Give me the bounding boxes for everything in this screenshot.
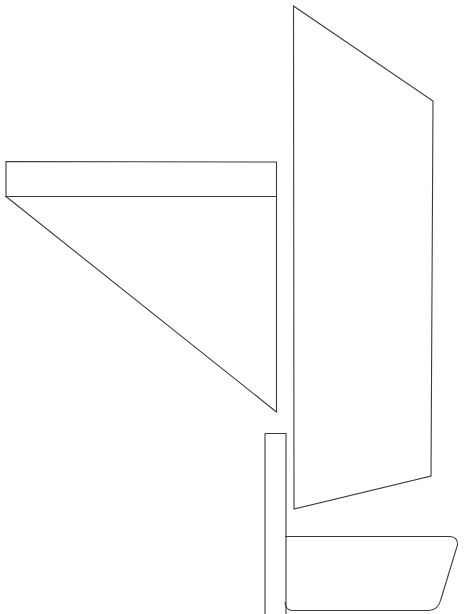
mast-spar-shape [265,434,286,614]
hull-shape [285,537,458,611]
mainsail-shape [294,6,434,509]
boom-bar-shape [6,162,277,197]
jib-sail-shape [6,197,277,413]
line-drawing-canvas [0,0,469,614]
sailboat-drawing-svg [0,0,469,614]
